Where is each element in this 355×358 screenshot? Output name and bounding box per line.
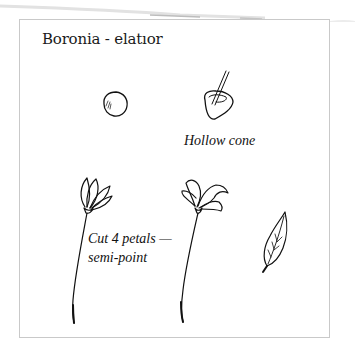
open-flower-icon (181, 180, 228, 322)
cut-petals-label-line2: semi-point (88, 248, 147, 267)
ball-icon (104, 92, 127, 116)
hollow-cone-label: Hollow cone (184, 131, 255, 150)
leaf-icon (263, 212, 287, 272)
hollow-cone-icon (205, 71, 233, 119)
illustrations (0, 0, 355, 358)
cut-petals-label-line1: Cut 4 petals — (88, 229, 172, 248)
